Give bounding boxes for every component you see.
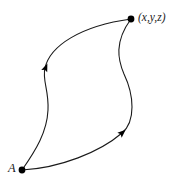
origin-point-label: A — [8, 162, 16, 175]
endpoint-coordinate-label: (x,y,z) — [138, 12, 165, 24]
endpoint-point-marker — [128, 16, 135, 23]
canvas-background — [0, 0, 184, 182]
origin-point-marker — [19, 167, 26, 174]
diagram-canvas: A (x,y,z) — [0, 0, 184, 182]
path-diagram-svg — [0, 0, 184, 182]
